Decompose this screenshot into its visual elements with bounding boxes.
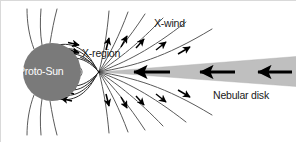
xwind-diagram-figure: Proto-Sun X-region X-wind Nebular disk bbox=[0, 0, 296, 142]
xwind-field-lines-lower bbox=[99, 72, 212, 133]
xwind-arrow-u5 bbox=[178, 47, 190, 54]
xwind-arrow-l1 bbox=[106, 94, 109, 106]
xwind-arrow-u4 bbox=[156, 42, 166, 50]
x-point bbox=[98, 71, 101, 74]
x-wind-label: X-wind bbox=[154, 18, 185, 29]
xwind-arrows-lower bbox=[106, 90, 190, 108]
xwind-arrow-l5 bbox=[178, 90, 190, 97]
xwind-arrow-u2 bbox=[121, 36, 127, 47]
proto-sun-label: Proto-Sun bbox=[18, 66, 63, 77]
nebular-disk-label: Nebular disk bbox=[213, 90, 269, 101]
xwind-arrow-l4 bbox=[156, 94, 166, 102]
xwind-arrow-l2 bbox=[121, 97, 127, 108]
polar-field-lines-lower bbox=[27, 95, 57, 135]
polar-field-lines-upper bbox=[27, 9, 57, 49]
x-region-label: X-region bbox=[82, 48, 120, 59]
